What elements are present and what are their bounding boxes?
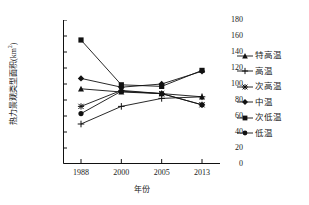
x-axis-tick-label: 2000	[101, 168, 141, 177]
legend-item-label: 次低温	[254, 113, 282, 122]
circle-marker	[243, 131, 248, 136]
legend-item-特高温[interactable]: 特高温	[236, 48, 308, 64]
series-3	[78, 68, 205, 90]
series-4	[78, 37, 204, 89]
data-point	[78, 103, 84, 109]
y-axis-tick-label: 160	[217, 32, 243, 40]
legend-item-低温[interactable]: 低温	[236, 126, 308, 142]
data-point	[159, 91, 164, 96]
x-axis-tick-label: 1988	[61, 168, 101, 177]
legend-item-label: 低温	[254, 129, 273, 138]
legend-item-label: 高温	[254, 67, 273, 76]
chart-figure: 热力景观类型面积(km2) 020406080100120140160180 1…	[0, 0, 309, 205]
data-point	[119, 89, 124, 94]
data-point	[159, 84, 164, 89]
triangle-icon	[236, 50, 254, 62]
data-point	[199, 68, 204, 73]
square-marker	[243, 115, 248, 120]
star-icon	[236, 81, 254, 93]
data-point	[119, 82, 124, 87]
diamond-marker	[242, 99, 248, 105]
legend-item-label: 特高温	[254, 51, 282, 60]
x-axis-title-text: 年份	[134, 185, 150, 194]
y-axis-tick-label: 180	[217, 16, 243, 24]
legend-item-中温[interactable]: 中温	[236, 95, 308, 111]
legend-item-高温[interactable]: 高温	[236, 64, 308, 80]
data-point	[78, 75, 84, 81]
data-point	[78, 121, 85, 128]
y-axis-title-close: )	[9, 43, 18, 46]
data-point	[78, 37, 83, 42]
circle-icon	[236, 127, 254, 139]
y-axis-tick-label: 0	[217, 160, 243, 168]
x-axis-title: 年份	[63, 183, 220, 194]
series-1	[78, 94, 206, 128]
y-axis-tick-label: 20	[217, 144, 243, 152]
series-line	[81, 97, 202, 124]
plot-svg	[63, 20, 220, 164]
series-line	[81, 40, 202, 86]
plot-area	[63, 20, 220, 164]
series-line	[81, 71, 202, 87]
legend-item-次高温[interactable]: 次高温	[236, 79, 308, 95]
legend-item-次低温[interactable]: 次低温	[236, 110, 308, 126]
data-point	[199, 102, 204, 107]
y-axis-title-superscript: 2	[7, 46, 13, 49]
diamond-icon	[236, 96, 254, 108]
data-point	[78, 111, 83, 116]
y-axis-title: 热力景观类型面积(km2)	[0, 0, 24, 168]
square-icon	[236, 112, 254, 124]
star-marker	[242, 84, 248, 90]
x-axis-tick-label: 2013	[182, 168, 222, 177]
x-axis-tick-label: 2005	[142, 168, 182, 177]
legend-item-label: 次高温	[254, 82, 282, 91]
plus-marker	[242, 68, 248, 74]
plus-icon	[236, 65, 254, 77]
y-axis-title-text: 热力景观类型面积(km	[9, 48, 18, 125]
legend-item-label: 中温	[254, 98, 273, 107]
data-point	[118, 103, 125, 110]
series-2	[78, 87, 205, 109]
chart-legend: 特高温高温次高温中温次低温低温	[236, 48, 308, 141]
